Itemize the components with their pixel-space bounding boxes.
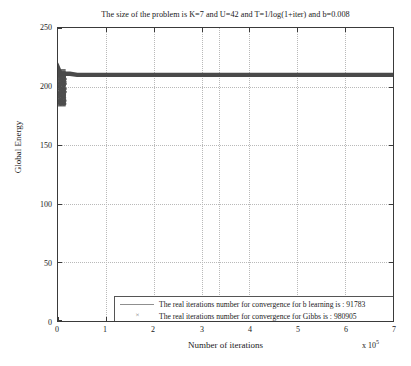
ytick-label: 200 [40,82,52,91]
ytick-label: 150 [40,141,52,150]
xtick-label: 6 [344,325,348,334]
xtick-label: 1 [103,325,107,334]
xtick-label: 7 [392,325,396,334]
legend-key-line [115,298,159,310]
y-axis-label: Global Energy [13,107,23,187]
legend-key-marker: × [115,310,159,322]
series-b-learning [58,69,393,107]
legend-item-b-learning[interactable]: The real iterations number for convergen… [115,298,394,310]
chart-legend[interactable]: The real iterations number for convergen… [114,296,394,322]
ytick-label: 0 [48,318,52,327]
xtick-label: 3 [200,325,204,334]
data-line-b-learning [58,70,393,77]
data-cluster-origin [58,69,66,107]
x-axis-exponent: x 105 [362,339,379,350]
ytick-label: 100 [40,200,52,209]
x-axis-exponent-power: 5 [376,339,379,345]
legend-label-b-learning: The real iterations number for convergen… [159,300,365,309]
legend-label-gibbs: The real iterations number for convergen… [159,312,357,321]
chart-title: The size of the problem is K=7 and U=42 … [57,10,394,19]
xtick-label: 2 [151,325,155,334]
ytick-label: 250 [40,23,52,32]
figure-canvas: The size of the problem is K=7 and U=42 … [0,0,411,366]
data-layer [58,28,393,321]
xtick-label: 4 [248,325,252,334]
xtick-label: 5 [296,325,300,334]
legend-item-gibbs[interactable]: × The real iterations number for converg… [115,310,394,322]
plot-area: The real iterations number for convergen… [57,27,394,322]
xtick-label: 0 [55,325,59,334]
x-axis-label: Number of iterations [57,340,394,350]
x-axis-exponent-prefix: x 10 [362,341,376,350]
ytick-label: 50 [44,259,52,268]
x-marker-icon: × [134,312,141,319]
